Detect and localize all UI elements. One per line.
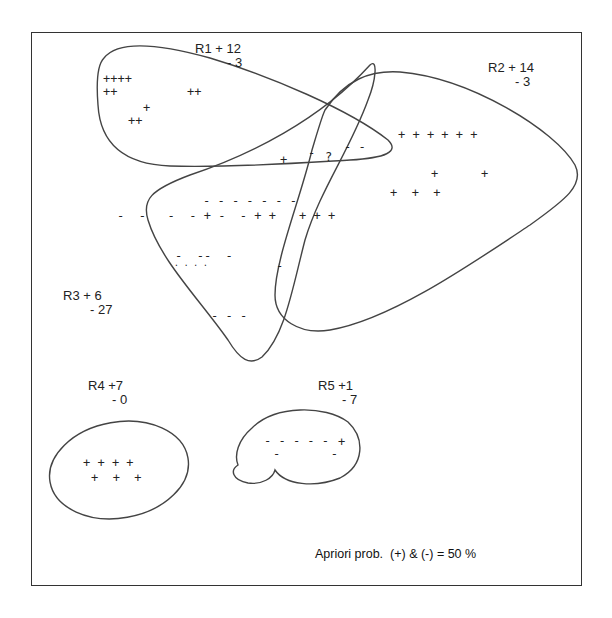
region-r3-label: R3 + 6 bbox=[63, 289, 102, 303]
data-points-plus: + + + + + + bbox=[398, 129, 477, 141]
data-point-minus: - bbox=[276, 260, 283, 272]
data-points-minus: - - - bbox=[211, 310, 247, 322]
data-point-minus: - bbox=[308, 147, 315, 159]
data-point-plus: + bbox=[431, 168, 438, 180]
data-points-dots: . . . . bbox=[174, 258, 208, 270]
region-r5-label: R5 +1 bbox=[318, 379, 353, 393]
data-points-minus: - - - - - - - bbox=[203, 195, 297, 207]
data-points-minus: - - bbox=[273, 448, 338, 460]
data-points-plus: + + + bbox=[91, 472, 142, 484]
data-points-mixed: - - - - + - - + + bbox=[117, 210, 276, 222]
diagram-canvas: R1 + 12 - 3 R2 + 14 - 3 R3 + 6 - 27 R4 +… bbox=[0, 0, 612, 618]
data-points-minus: - - - - - bbox=[264, 435, 329, 447]
data-points-minus: - - bbox=[344, 141, 366, 153]
region-r5-sublabel: - 7 bbox=[342, 393, 357, 407]
region-r4-boundary bbox=[42, 411, 197, 530]
data-points-plus: ++++ bbox=[103, 73, 132, 85]
region-r2-label: R2 + 14 bbox=[488, 61, 534, 75]
data-point-plus: + bbox=[280, 154, 287, 166]
data-points-plus: + bbox=[143, 102, 150, 114]
data-point-plus: + bbox=[481, 168, 488, 180]
region-r2-sublabel: - 3 bbox=[515, 75, 530, 89]
data-points-plus: ++ bbox=[103, 86, 117, 98]
apriori-probability-note: Apriori prob. (+) & (-) = 50 % bbox=[315, 547, 476, 561]
region-r1-count-pos: R1 + 12 bbox=[195, 41, 241, 56]
data-point-unknown: ? bbox=[325, 151, 332, 163]
data-points-plus: + + + + bbox=[83, 457, 134, 469]
region-r4-sublabel: - 0 bbox=[112, 393, 127, 407]
data-point-plus: + bbox=[338, 436, 345, 448]
data-points-plus: ++ bbox=[187, 86, 201, 98]
data-points-plus: + + + bbox=[390, 187, 441, 199]
region-r1-sublabel: - 3 bbox=[227, 56, 242, 70]
region-r1-label: R1 + 12 bbox=[195, 42, 241, 56]
region-r3-sublabel: - 27 bbox=[90, 303, 112, 317]
region-r4-label: R4 +7 bbox=[88, 379, 123, 393]
data-points-plus: ++ bbox=[128, 115, 142, 127]
data-points-plus: + + + bbox=[299, 210, 335, 222]
